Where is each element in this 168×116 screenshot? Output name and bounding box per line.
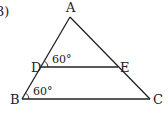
label-e: E <box>120 61 130 74</box>
angle-arc-d <box>45 61 49 67</box>
label-a: A <box>66 1 75 14</box>
angle-label-b: 60° <box>33 86 53 97</box>
label-c: C <box>153 93 163 106</box>
label-b: B <box>10 93 20 106</box>
triangle-figure <box>0 0 168 116</box>
side-ac <box>70 17 150 99</box>
label-d: D <box>31 61 41 74</box>
angle-arc-b <box>26 93 30 99</box>
angle-label-d: 60° <box>52 54 72 65</box>
